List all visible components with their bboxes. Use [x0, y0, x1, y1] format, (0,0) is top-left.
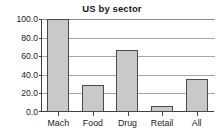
- bar-all[interactable]: [186, 79, 208, 112]
- x-tick-mark: [128, 112, 129, 116]
- x-tick-mark: [162, 112, 163, 116]
- bar-mach[interactable]: [47, 19, 69, 112]
- x-tick-mark: [93, 112, 94, 116]
- y-tick-label: 60.0: [0, 52, 38, 61]
- bar-slot-retail: [145, 19, 180, 112]
- y-tick-label: 80.0: [0, 34, 38, 43]
- bar-slot-drug: [110, 19, 145, 112]
- bar-food[interactable]: [82, 85, 104, 112]
- y-tick-label: 0.0: [0, 108, 38, 117]
- y-axis-labels: 100.0 80.0 60.0 40.0 20.0 0.0: [0, 19, 38, 112]
- bar-slot-food: [76, 19, 111, 112]
- x-axis-labels: Mach Food Drug Retail All: [41, 118, 214, 132]
- y-tick-label: 40.0: [0, 71, 38, 80]
- x-tick-label-drug: Drug: [110, 118, 145, 132]
- x-tick-mark: [58, 112, 59, 116]
- x-tick-label-all: All: [179, 118, 214, 132]
- bar-slot-all: [179, 19, 214, 112]
- x-tick-mark: [197, 112, 198, 116]
- x-tick-label-food: Food: [76, 118, 111, 132]
- x-axis-ticks: [41, 112, 214, 117]
- x-tick-label-mach: Mach: [41, 118, 76, 132]
- y-tick-label: 20.0: [0, 89, 38, 98]
- bar-drug[interactable]: [116, 50, 138, 112]
- chart-figure: US by sector 100.0 80.0 60.0 40.0 20.0 0…: [0, 0, 224, 139]
- bar-slot-mach: [41, 19, 76, 112]
- x-tick-label-retail: Retail: [145, 118, 180, 132]
- bar-series: [41, 19, 214, 112]
- chart-title: US by sector: [0, 3, 224, 14]
- y-tick-label: 100.0: [0, 15, 38, 24]
